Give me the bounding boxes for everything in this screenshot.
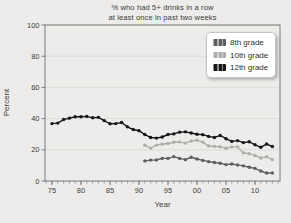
svg-text:40: 40 xyxy=(31,114,39,123)
legend-item-10th-grade: 10th grade xyxy=(213,51,268,60)
legend-label-8th-grade: 8th grade xyxy=(230,38,264,47)
legend-item-8th-grade: 8th grade xyxy=(213,38,268,47)
legend-swatch-8th-grade-icon xyxy=(213,39,226,46)
legend-label-12th-grade: 12th grade xyxy=(230,63,268,72)
svg-text:20: 20 xyxy=(31,145,39,154)
svg-text:100: 100 xyxy=(27,21,40,30)
binge-drinking-chart: % who had 5+ drinks in a row at least on… xyxy=(0,0,291,223)
svg-text:75: 75 xyxy=(48,186,56,195)
legend-item-12th-grade: 12th grade xyxy=(213,63,268,72)
svg-text:00: 00 xyxy=(193,186,201,195)
svg-text:0: 0 xyxy=(35,177,39,186)
x-axis-label: Year xyxy=(45,200,280,209)
svg-text:80: 80 xyxy=(31,52,39,61)
svg-text:85: 85 xyxy=(106,186,114,195)
legend: 8th grade 10th grade 12th grade xyxy=(206,32,276,78)
svg-text:80: 80 xyxy=(77,186,85,195)
legend-swatch-10th-grade-icon xyxy=(213,52,226,59)
legend-swatch-12th-grade-icon xyxy=(213,64,226,71)
svg-text:05: 05 xyxy=(222,186,230,195)
svg-text:95: 95 xyxy=(164,186,172,195)
y-axis-label: Percent xyxy=(2,73,11,133)
svg-text:90: 90 xyxy=(135,186,143,195)
svg-text:10: 10 xyxy=(251,186,259,195)
legend-label-10th-grade: 10th grade xyxy=(230,51,268,60)
svg-text:60: 60 xyxy=(31,83,39,92)
